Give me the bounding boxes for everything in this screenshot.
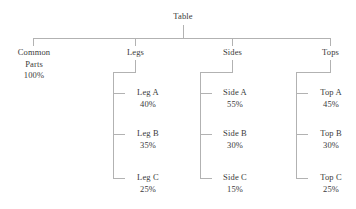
node-top-b: Top B 30% — [309, 128, 353, 151]
node-side-b-label: Side B — [213, 128, 257, 140]
connector-tops-spine — [296, 72, 297, 179]
connector-tops-stem — [330, 60, 331, 72]
node-leg-a-percent: 40% — [126, 99, 170, 111]
node-common-parts-percent: 100% — [5, 70, 63, 82]
node-leg-a: Leg A 40% — [126, 87, 170, 110]
node-side-c-label: Side C — [213, 172, 257, 184]
node-common-parts-label-line2: Parts — [5, 59, 63, 71]
connector-drop-common-parts — [33, 38, 34, 46]
node-top-b-label: Top B — [309, 128, 353, 140]
node-leg-c: Leg C 25% — [126, 172, 170, 195]
connector-top-b-stub — [296, 134, 308, 135]
connector-leg-b-stub — [113, 134, 125, 135]
node-side-a: Side A 55% — [213, 87, 257, 110]
node-side-b: Side B 30% — [213, 128, 257, 151]
node-leg-b-percent: 35% — [126, 140, 170, 152]
node-leg-c-percent: 25% — [126, 184, 170, 196]
connector-drop-tops — [330, 38, 331, 46]
node-common-parts-label-line1: Common — [5, 47, 63, 59]
node-top-c-percent: 25% — [309, 184, 353, 196]
node-side-c-percent: 15% — [213, 184, 257, 196]
node-leg-c-label: Leg C — [126, 172, 170, 184]
connector-leg-c-stub — [113, 178, 125, 179]
node-top-b-percent: 30% — [309, 140, 353, 152]
product-structure-tree-diagram: Table Common Parts 100% Legs Sides Tops … — [0, 0, 356, 209]
node-side-b-percent: 30% — [213, 140, 257, 152]
connector-sides-spine — [200, 72, 201, 179]
node-root-table: Table — [160, 11, 206, 23]
node-root-table-label: Table — [160, 11, 206, 23]
node-legs-label: Legs — [113, 47, 158, 59]
node-top-c: Top C 25% — [309, 172, 353, 195]
connector-sides-stem — [232, 60, 233, 72]
connector-level1-bus — [33, 38, 331, 39]
connector-side-c-stub — [200, 178, 212, 179]
node-side-a-percent: 55% — [213, 99, 257, 111]
connector-sides-elbow — [200, 72, 233, 73]
node-top-a: Top A 45% — [309, 87, 353, 110]
connector-leg-a-stub — [113, 93, 125, 94]
node-leg-b: Leg B 35% — [126, 128, 170, 151]
connector-drop-sides — [232, 38, 233, 46]
connector-root-stem — [183, 25, 184, 38]
connector-tops-elbow — [296, 72, 331, 73]
connector-top-a-stub — [296, 93, 308, 94]
node-legs: Legs — [113, 47, 158, 59]
connector-legs-elbow — [113, 72, 136, 73]
connector-legs-spine — [113, 72, 114, 179]
node-sides: Sides — [210, 47, 255, 59]
connector-top-c-stub — [296, 178, 308, 179]
node-leg-b-label: Leg B — [126, 128, 170, 140]
node-top-a-percent: 45% — [309, 99, 353, 111]
connector-side-b-stub — [200, 134, 212, 135]
node-sides-label: Sides — [210, 47, 255, 59]
connector-legs-stem — [135, 60, 136, 72]
node-top-c-label: Top C — [309, 172, 353, 184]
node-leg-a-label: Leg A — [126, 87, 170, 99]
node-common-parts: Common Parts 100% — [5, 47, 63, 82]
node-tops: Tops — [308, 47, 353, 59]
connector-side-a-stub — [200, 93, 212, 94]
node-tops-label: Tops — [308, 47, 353, 59]
node-top-a-label: Top A — [309, 87, 353, 99]
node-side-c: Side C 15% — [213, 172, 257, 195]
node-side-a-label: Side A — [213, 87, 257, 99]
connector-drop-legs — [135, 38, 136, 46]
